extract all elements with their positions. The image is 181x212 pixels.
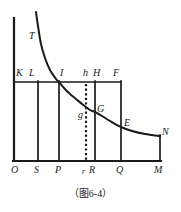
figure-container: T K L I h H F g G E N O S P r R Q M （图6-… [0,0,181,212]
point-label-L: L [29,68,35,78]
point-label-T: T [29,31,35,41]
axis-label-Q: Q [116,165,123,175]
figure-caption: （图6-4） [0,188,181,200]
axis-label-r: r [82,167,85,177]
axis-label-P: P [55,165,61,175]
point-label-K: K [16,68,23,78]
axis-label-R: R [89,165,95,175]
point-label-H: H [93,68,100,78]
axis-label-M: M [154,165,162,175]
point-label-N: N [162,127,169,137]
point-label-E: E [124,118,130,128]
point-label-g: g [78,110,83,120]
point-label-h: h [83,68,88,78]
point-label-I: I [60,68,63,78]
diagram-canvas [0,0,181,212]
point-label-G: G [97,104,104,114]
point-label-F: F [113,68,119,78]
axis-label-S: S [34,165,39,175]
axis-label-O: O [11,165,18,175]
